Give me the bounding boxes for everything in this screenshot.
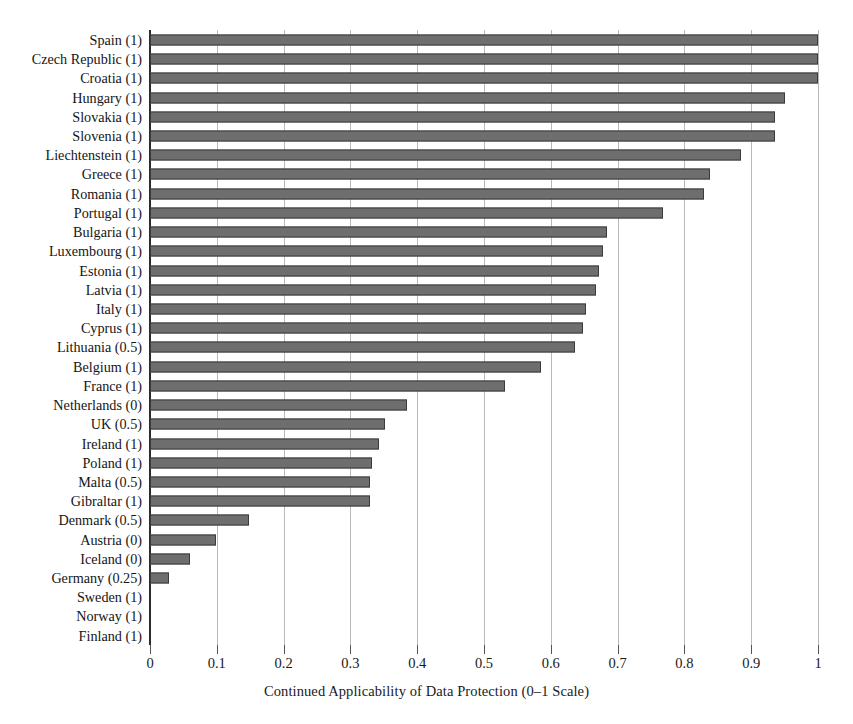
chart-row: Slovakia (1) [0,107,853,127]
chart-row: Estonia (1) [0,261,853,281]
x-tick-label: 0.6 [542,655,560,672]
category-label: Cyprus (1) [81,320,142,337]
bar [150,400,407,411]
category-label: Slovenia (1) [72,128,142,145]
x-tick-label: 0.4 [408,655,426,672]
category-label: Ireland (1) [82,435,142,452]
chart-row: Czech Republic (1) [0,49,853,69]
bar [150,188,704,199]
x-tick-label: 0 [146,655,153,672]
x-axis-title: Continued Applicability of Data Protecti… [0,683,853,700]
category-label: France (1) [83,377,142,394]
category-label: Spain (1) [90,31,142,48]
chart-row: Denmark (0.5) [0,510,853,530]
chart-row: Malta (0.5) [0,472,853,492]
category-label: UK (0.5) [91,416,142,433]
chart-row: Poland (1) [0,453,853,473]
category-label: Greece (1) [82,166,142,183]
bar [150,534,216,545]
x-tick-label: 1 [814,655,821,672]
bar [150,34,818,45]
category-label: Slovakia (1) [72,108,142,125]
bar-chart: 00.10.20.30.40.50.60.70.80.91 Continued … [0,0,853,724]
chart-row: Slovenia (1) [0,126,853,146]
category-label: Germany (0.25) [51,570,142,587]
chart-row: Austria (0) [0,530,853,550]
bar [150,515,249,526]
chart-row: Portugal (1) [0,203,853,223]
bar [150,457,372,468]
x-tick-mark [684,645,685,654]
x-tick-mark [350,645,351,654]
bar [150,303,586,314]
category-label: Romania (1) [71,185,142,202]
x-tick-mark [217,645,218,654]
chart-row: France (1) [0,376,853,396]
bar [150,111,775,122]
bar [150,438,379,449]
category-label: Denmark (0.5) [58,512,142,529]
x-tick-mark [818,645,819,654]
x-tick-mark [551,645,552,654]
bar [150,73,818,84]
chart-row: Romania (1) [0,184,853,204]
chart-row: Lithuania (0.5) [0,338,853,358]
x-tick-label: 0.2 [275,655,293,672]
bar [150,131,775,142]
x-tick-label: 0.1 [208,655,226,672]
chart-row: Spain (1) [0,30,853,50]
category-label: Belgium (1) [73,358,142,375]
chart-row: Sweden (1) [0,587,853,607]
bar [150,92,785,103]
bar [150,573,169,584]
x-tick-label: 0.9 [742,655,760,672]
bar [150,150,741,161]
bar [150,553,190,564]
bar [150,496,370,507]
category-label: Bulgaria (1) [73,224,142,241]
category-label: Portugal (1) [74,204,142,221]
x-tick-mark [284,645,285,654]
chart-row: Iceland (0) [0,549,853,569]
x-tick-mark [484,645,485,654]
x-tick-label: 0.5 [475,655,493,672]
bar [150,380,505,391]
chart-row: Germany (0.25) [0,568,853,588]
chart-row: Belgium (1) [0,357,853,377]
bar [150,342,575,353]
category-label: Sweden (1) [77,589,142,606]
chart-row: Hungary (1) [0,88,853,108]
category-label: Italy (1) [96,300,142,317]
bar [150,246,603,257]
category-label: Austria (0) [80,531,142,548]
category-label: Croatia (1) [80,70,142,87]
chart-row: Finland (1) [0,626,853,646]
category-label: Norway (1) [76,608,142,625]
bar [150,476,370,487]
category-label: Finland (1) [79,627,142,644]
chart-row: Latvia (1) [0,280,853,300]
chart-row: Luxembourg (1) [0,241,853,261]
bar [150,207,663,218]
chart-row: Italy (1) [0,299,853,319]
x-tick-mark [751,645,752,654]
category-label: Netherlands (0) [53,397,142,414]
chart-row: Cyprus (1) [0,318,853,338]
x-tick-mark [417,645,418,654]
category-label: Poland (1) [82,454,142,471]
category-label: Iceland (0) [80,550,142,567]
bar [150,419,385,430]
chart-row: Norway (1) [0,607,853,627]
category-label: Estonia (1) [79,262,142,279]
category-label: Latvia (1) [86,281,142,298]
chart-row: Ireland (1) [0,434,853,454]
category-label: Gibraltar (1) [71,493,142,510]
category-label: Czech Republic (1) [32,51,142,68]
bar [150,169,710,180]
chart-row: UK (0.5) [0,414,853,434]
x-tick-label: 0.3 [341,655,359,672]
chart-row: Croatia (1) [0,68,853,88]
category-label: Liechtenstein (1) [45,147,142,164]
category-label: Malta (0.5) [78,473,142,490]
chart-row: Netherlands (0) [0,395,853,415]
